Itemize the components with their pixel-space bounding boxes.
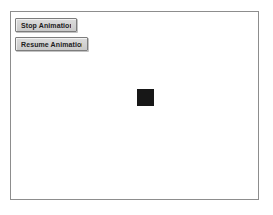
stop-animation-button[interactable]: Stop Animation xyxy=(15,18,77,32)
control-bar: Stop Animation Resume Animation xyxy=(15,18,255,56)
resume-animation-button[interactable]: Resume Animation xyxy=(15,37,88,51)
stop-animation-button-label: Stop Animation xyxy=(21,19,71,32)
applet-panel: Stop Animation Resume Animation xyxy=(10,11,259,200)
animated-square xyxy=(137,89,154,106)
resume-animation-button-label: Resume Animation xyxy=(21,38,82,51)
app-root: Stop Animation Resume Animation xyxy=(0,0,273,215)
